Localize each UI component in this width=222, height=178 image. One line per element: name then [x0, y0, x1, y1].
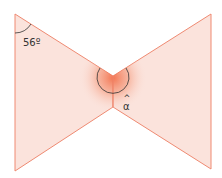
alpha-label: α — [123, 101, 130, 112]
center-glow — [70, 40, 160, 120]
bowtie-diagram: 56º ^ α — [0, 0, 222, 178]
given-angle-label: 56º — [23, 37, 41, 48]
